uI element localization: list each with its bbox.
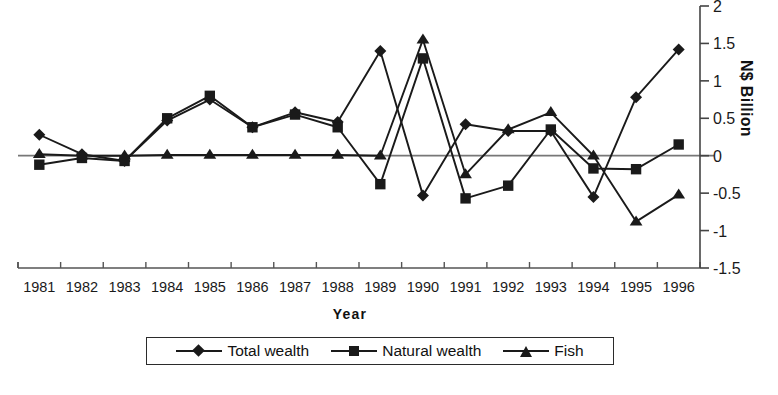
legend-label: Fish [554,342,583,360]
svg-text:0: 0 [713,148,722,165]
svg-text:1: 1 [713,73,722,90]
legend-item-fish: Fish [503,342,583,360]
plot-area: 21.510.50-0.5-1-1.5198119821983198419851… [0,0,778,300]
svg-text:1983: 1983 [108,279,140,295]
square-marker-icon [331,344,377,358]
triangle-marker-icon [503,344,549,358]
chart-container: 21.510.50-0.5-1-1.5198119821983198419851… [0,0,778,395]
svg-text:1984: 1984 [151,279,183,295]
svg-text:2: 2 [713,0,722,15]
y-axis-title: N$ Billion [737,60,755,230]
chart-legend: Total wealth Natural wealth Fish [146,337,614,365]
svg-text:1985: 1985 [194,279,226,295]
legend-item-total-wealth: Total wealth [176,342,309,360]
legend-item-natural-wealth: Natural wealth [331,342,481,360]
diamond-marker-icon [176,344,222,358]
legend-label: Natural wealth [382,342,481,360]
svg-text:1982: 1982 [66,279,98,295]
svg-text:1991: 1991 [449,279,481,295]
svg-text:1.5: 1.5 [713,35,735,52]
svg-text:1986: 1986 [236,279,268,295]
svg-text:1994: 1994 [577,279,609,295]
svg-text:1989: 1989 [364,279,396,295]
legend-label: Total wealth [227,342,309,360]
svg-text:1981: 1981 [23,279,55,295]
svg-text:1995: 1995 [620,279,652,295]
svg-text:1993: 1993 [535,279,567,295]
svg-text:-1.5: -1.5 [713,260,741,277]
svg-text:-1: -1 [713,223,727,240]
svg-text:1990: 1990 [407,279,439,295]
svg-text:1992: 1992 [492,279,524,295]
svg-text:1996: 1996 [663,279,695,295]
svg-text:1988: 1988 [322,279,354,295]
svg-text:1987: 1987 [279,279,311,295]
svg-text:0.5: 0.5 [713,110,735,127]
x-axis-title: Year [0,306,700,322]
